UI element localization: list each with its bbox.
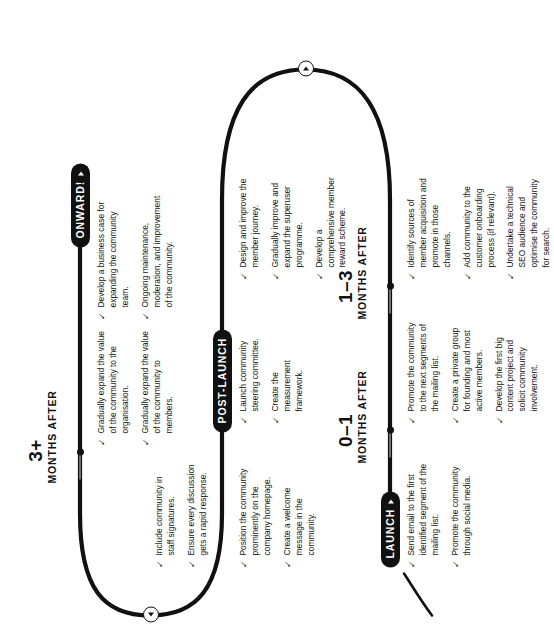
stage-badge-label: ONWARD!: [71, 180, 90, 238]
check-icon: ✓: [96, 436, 108, 445]
task-text: Design and improve the member journey.: [238, 173, 262, 267]
check-icon: ✓: [96, 310, 108, 319]
task-text: Create a welcome message in the communit…: [282, 463, 318, 555]
task-list-3-plus-a: ✓ Gradually expand the value of the comm…: [96, 327, 184, 445]
node-leader-line-3-plus: [79, 453, 81, 479]
period-number: 3+: [26, 417, 45, 483]
task-text: Add community to the customer onboarding…: [462, 173, 498, 267]
period-unit: MONTHS AFTER: [46, 417, 59, 483]
play-triangle-icon: [303, 66, 309, 70]
period-heading-0-1: 0–1 MONTHS AFTER: [336, 397, 369, 463]
direction-marker-right-bend: [298, 60, 314, 76]
task-list-post-launch-a: ✓ Position the community prominently on …: [238, 463, 326, 567]
task-item: ✓ Develop a comprehensive member reward …: [314, 173, 350, 279]
task-item: ✓ Develop a business case for expanding …: [96, 191, 132, 319]
task-item: ✓ Identify sources of member acquisition…: [406, 173, 454, 279]
stage-badge-onward[interactable]: ONWARD!: [71, 163, 90, 247]
task-text: Promote the community to the next segmen…: [406, 319, 442, 411]
timeline-node-0-1: [387, 426, 394, 433]
task-item: ✓ Gradually expand the value of the comm…: [96, 327, 132, 445]
task-list-launch: ✓ Send email to the first identified seg…: [406, 463, 482, 567]
task-text: Undertake a technical SEO audience and o…: [505, 173, 553, 267]
check-icon: ✓: [270, 414, 282, 423]
task-text: Gradually improve and expand the superus…: [270, 173, 306, 267]
task-item: ✓ Position the community prominently on …: [238, 463, 274, 567]
stage-badge-label: POST-LAUNCH: [213, 337, 232, 423]
stage-badge-post-launch[interactable]: POST-LAUNCH: [213, 329, 232, 432]
task-text: Develop a business case for expanding th…: [96, 191, 132, 307]
check-icon: ✓: [238, 270, 250, 279]
period-unit: MONTHS AFTER: [356, 253, 369, 319]
task-item: ✓ Launch community steering committee.: [238, 319, 262, 423]
task-item: ✓ Create a welcome message in the commun…: [282, 463, 318, 567]
timeline-node-1-3: [387, 282, 394, 289]
node-leader-line-1-3: [389, 287, 391, 313]
check-icon: ✓: [406, 270, 418, 279]
task-text: Ensure every discussion gets a rapid res…: [186, 463, 210, 555]
check-icon: ✓: [186, 558, 198, 567]
check-icon: ✓: [314, 270, 326, 279]
task-text: Create a private group for founding and …: [450, 319, 486, 411]
check-icon: ✓: [238, 558, 250, 567]
task-item: ✓ Include community in staff signatures.: [154, 463, 178, 567]
task-item: ✓ Ensure every discussion gets a rapid r…: [186, 463, 210, 567]
task-text: Develop a comprehensive member reward sc…: [314, 173, 350, 267]
check-icon: ✓: [154, 558, 166, 567]
task-text: Develop the first big content project an…: [494, 319, 542, 411]
task-text: Include community in staff signatures.: [154, 463, 178, 555]
task-item: ✓ Gradually expand the value of the comm…: [140, 327, 176, 445]
task-item: ✓ Gradually improve and expand the super…: [270, 173, 306, 279]
task-list-post-launch-c: ✓ Include community in staff signatures.…: [154, 463, 218, 567]
check-icon: ✓: [450, 414, 462, 423]
task-item: ✓ Add community to the customer onboardi…: [462, 173, 498, 279]
check-icon: ✓: [450, 558, 462, 567]
check-icon: ✓: [406, 414, 418, 423]
task-item: ✓ Design and improve the member journey.: [238, 173, 262, 279]
task-text: Promote the community through social med…: [450, 463, 474, 555]
check-icon: ✓: [282, 558, 294, 567]
task-item: ✓ Promote the community to the next segm…: [406, 319, 442, 423]
task-text: Identify sources of member acquisition a…: [406, 173, 454, 267]
task-item: ✓ Create a private group for founding an…: [450, 319, 486, 423]
task-text: Send email to the first identified segme…: [406, 463, 442, 555]
task-list-0-1: ✓ Promote the community to the next segm…: [406, 319, 549, 423]
task-list-1-3: ✓ Identify sources of member acquisition…: [406, 173, 554, 279]
task-item: ✓ Ongoing maintenance, moderation, and i…: [140, 191, 176, 319]
check-icon: ✓: [462, 270, 474, 279]
task-text: Gradually expand the value of the commun…: [96, 327, 132, 433]
play-triangle-icon: [388, 499, 394, 503]
task-list-1-3-continued: ✓ Design and improve the member journey.…: [238, 173, 357, 279]
period-heading-3-plus: 3+ MONTHS AFTER: [26, 417, 59, 483]
task-item: ✓ Develop the first big content project …: [494, 319, 542, 423]
direction-marker-left-bend: [143, 606, 159, 622]
node-leader-line-0-1: [389, 431, 391, 457]
check-icon: ✓: [270, 270, 282, 279]
task-item: ✓ Undertake a technical SEO audience and…: [505, 173, 553, 279]
task-text: Launch community steering committee.: [238, 319, 262, 411]
play-triangle-icon: [148, 612, 154, 616]
task-list-3-plus-b: ✓ Develop a business case for expanding …: [96, 191, 184, 319]
track-entry-tail: [404, 573, 432, 615]
check-icon: ✓: [406, 558, 418, 567]
stage-badge-label: LAUNCH: [381, 508, 400, 558]
check-icon: ✓: [140, 310, 152, 319]
stage-badge-launch[interactable]: LAUNCH: [381, 491, 400, 567]
task-item: ✓ Send email to the first identified seg…: [406, 463, 442, 567]
play-triangle-icon: [78, 171, 84, 175]
check-icon: ✓: [505, 270, 517, 279]
check-icon: ✓: [494, 414, 506, 423]
period-unit: MONTHS AFTER: [356, 397, 369, 463]
check-icon: ✓: [140, 436, 152, 445]
task-item: ✓ Create the measurement framework.: [270, 319, 306, 423]
task-text: Create the measurement framework.: [270, 319, 306, 411]
task-text: Position the community prominently on th…: [238, 463, 274, 555]
task-list-post-launch-b: ✓ Launch community steering committee. ✓…: [238, 319, 314, 423]
task-item: ✓ Promote the community through social m…: [450, 463, 474, 567]
task-text: Ongoing maintenance, moderation, and imp…: [140, 191, 176, 307]
period-number: 0–1: [336, 397, 355, 463]
check-icon: ✓: [238, 414, 250, 423]
timeline-node-3-plus: [77, 448, 84, 455]
